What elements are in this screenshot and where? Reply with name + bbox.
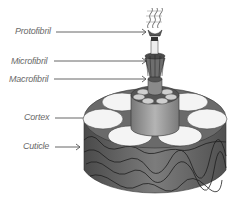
arrow-microfibril (54, 58, 146, 64)
macrofibril-stub (148, 76, 162, 95)
arrow-macrofibril (54, 76, 146, 82)
protofibril-stalk (148, 30, 162, 54)
microfibril-bundle (145, 53, 165, 77)
protofibril-helices (146, 8, 162, 28)
arrow-cuticle (55, 144, 80, 150)
hair-structure-illustration (0, 0, 236, 213)
arrow-protofibril (56, 29, 146, 35)
